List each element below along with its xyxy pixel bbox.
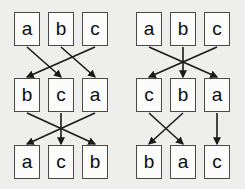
arrow-right-2 [149,47,217,77]
arrow-right-3 [149,113,183,144]
node-box-left-r3-c2: c [48,145,74,179]
node-box-left-r2-c2: c [48,78,74,112]
node-box-left-r1-c3: c [82,12,108,46]
node-label: c [212,152,222,171]
node-label: b [178,19,189,38]
left-permutation-diagram: abcbcaacb [0,0,122,189]
arrow-right-0 [149,47,217,77]
node-box-left-r2-c1: b [14,78,40,112]
node-label: c [56,85,66,104]
node-label: c [144,85,154,104]
node-label: a [144,19,155,38]
node-box-right-r1-c1: a [136,12,162,46]
right-permutation-diagram: abccbabac [122,0,244,189]
node-label: b [22,85,33,104]
arrow-left-1 [61,47,95,77]
node-label: a [22,152,33,171]
node-box-left-r1-c1: a [14,12,40,46]
node-box-right-r2-c3: a [204,78,230,112]
node-box-left-r1-c2: b [48,12,74,46]
arrow-left-3 [27,113,95,144]
permutation-diagram-figure: abcbcaacb abccbabac [0,0,245,189]
node-label: b [56,19,67,38]
node-box-right-r3-c1: b [136,145,162,179]
arrow-left-2 [27,47,95,77]
node-label: a [90,85,101,104]
node-label: b [178,85,189,104]
node-label: c [212,19,222,38]
node-label: a [22,19,33,38]
node-box-right-r3-c2: a [170,145,196,179]
node-label: a [178,152,189,171]
node-box-left-r2-c3: a [82,78,108,112]
node-box-right-r3-c3: c [204,145,230,179]
arrow-right-4 [149,113,183,144]
node-label: b [144,152,155,171]
node-box-left-r3-c1: a [14,145,40,179]
node-box-right-r2-c1: c [136,78,162,112]
node-box-right-r2-c2: b [170,78,196,112]
node-box-right-r1-c3: c [204,12,230,46]
node-label: b [90,152,101,171]
arrow-left-0 [27,47,61,77]
node-label: a [212,85,223,104]
arrow-left-5 [27,113,95,144]
node-label: c [90,19,100,38]
node-box-left-r3-c3: b [82,145,108,179]
node-label: c [56,152,66,171]
node-box-right-r1-c2: b [170,12,196,46]
